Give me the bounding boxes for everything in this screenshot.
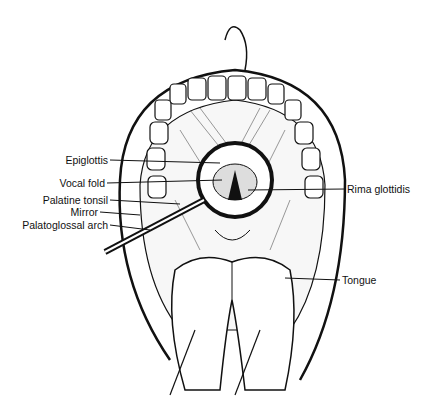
label-palatine-tonsil: Palatine tonsil [43, 194, 108, 206]
label-tongue: Tongue [342, 274, 376, 286]
mouth-illustration [0, 0, 430, 414]
label-rima-glottidis: Rima glottidis [347, 183, 410, 195]
label-vocal-fold: Vocal fold [59, 177, 105, 189]
label-palatoglossal-arch: Palatoglossal arch [22, 219, 108, 231]
label-epiglottis: Epiglottis [65, 154, 108, 166]
label-mirror: Mirror [71, 206, 98, 218]
